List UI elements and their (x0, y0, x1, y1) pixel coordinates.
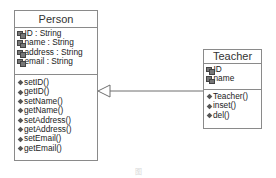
attribute-row: name (206, 74, 261, 83)
class-name: Teacher (204, 50, 261, 64)
method-icon (207, 113, 213, 119)
methods-compartment: Teacher() inset() del() (204, 90, 261, 120)
method-icon (18, 117, 24, 123)
method-icon (18, 146, 24, 152)
attribute-icon (206, 67, 213, 73)
class-name: Person (15, 11, 97, 28)
inheritance-arrowhead-icon (98, 85, 110, 97)
method-icon (18, 136, 24, 142)
method-icon (18, 80, 24, 86)
attribute-row: email : String (17, 57, 97, 66)
method-icon (18, 108, 24, 114)
attribute-icon (17, 31, 24, 37)
attributes-compartment: ID name (204, 64, 261, 90)
method-icon (18, 89, 24, 95)
figure-caption: 图 (0, 166, 276, 176)
attribute-icon (206, 76, 213, 82)
method-icon (18, 127, 24, 133)
attributes-compartment: ID : String name : String address : Stri… (15, 28, 97, 75)
method-icon (18, 99, 24, 105)
method-row: getEmail() (17, 144, 97, 153)
method-row: del() (206, 111, 261, 120)
class-teacher[interactable]: Teacher ID name Teacher() inset() del() (203, 49, 262, 129)
attribute-icon (17, 50, 24, 56)
method-icon (207, 94, 213, 100)
method-icon (207, 103, 213, 109)
attribute-icon (17, 40, 24, 46)
attribute-icon (17, 59, 24, 65)
methods-compartment: setID() getID() setName() getName() setA… (15, 75, 97, 153)
class-person[interactable]: Person ID : String name : String address… (14, 10, 98, 161)
